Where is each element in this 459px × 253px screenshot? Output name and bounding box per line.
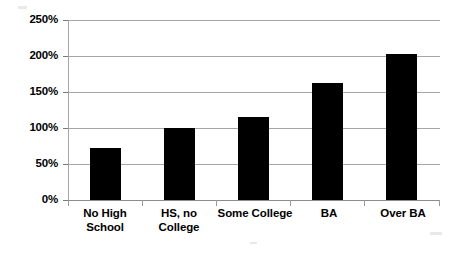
bar-some-college — [238, 117, 269, 200]
y-axis-tick-label: 150% — [0, 86, 58, 98]
bar-ba — [312, 83, 343, 200]
y-axis-tick-label: 50% — [0, 158, 58, 170]
bar-no-high-school — [90, 148, 121, 200]
bar-hs-no-college — [164, 128, 195, 200]
x-axis-label-some-college: Some College — [214, 206, 296, 220]
x-axis-label-line: School — [68, 220, 142, 234]
gridline-200 — [68, 56, 440, 57]
y-axis-tick-label: 0% — [0, 194, 58, 206]
x-axis-labels: No High School HS, no College Some Colle… — [68, 206, 440, 250]
y-axis-tick-label: 250% — [0, 14, 58, 26]
x-axis-label-over-ba: Over BA — [366, 206, 440, 220]
y-axis-tick-label: 200% — [0, 50, 58, 62]
y-axis-tick-label: 100% — [0, 122, 58, 134]
plot-area — [68, 20, 440, 200]
bar-over-ba — [386, 54, 417, 200]
gridline-150 — [68, 92, 440, 93]
x-axis-label-line: No High — [68, 206, 142, 220]
x-axis-label-line: BA — [292, 206, 366, 220]
x-axis-label-ba: BA — [292, 206, 366, 220]
x-axis-label-line: Some College — [214, 206, 296, 220]
x-axis-label-line: HS, no — [142, 206, 216, 220]
y-axis-labels: 250% 200% 150% 100% 50% 0% — [0, 0, 60, 253]
x-axis-label-line: College — [142, 220, 216, 234]
x-axis-label-line: Over BA — [366, 206, 440, 220]
gridline-250 — [68, 20, 440, 21]
gridline-baseline-0 — [68, 200, 440, 201]
bar-chart: 250% 200% 150% 100% 50% 0% No High S — [0, 0, 459, 253]
x-axis-label-hs-no-college: HS, no College — [142, 206, 216, 234]
x-axis-label-no-high-school: No High School — [68, 206, 142, 234]
